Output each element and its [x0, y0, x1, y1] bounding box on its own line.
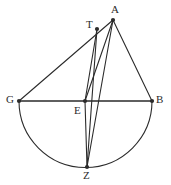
- segment-te: [85, 29, 97, 101]
- segment-group: [19, 20, 152, 167]
- segment-ab: [113, 20, 152, 101]
- segment-tz: [87, 29, 97, 167]
- vertex-label-a: A: [111, 4, 119, 15]
- vertex-label-b: B: [156, 94, 163, 105]
- geometry-diagram: ATGEBZ: [0, 0, 171, 185]
- vertex-label-g: G: [6, 94, 14, 105]
- vertex-label-e: E: [74, 105, 81, 116]
- vertex-dot-b: [150, 99, 154, 103]
- vertex-dot-e: [83, 99, 87, 103]
- vertex-label-z: Z: [83, 170, 90, 181]
- vertex-dot-g: [17, 99, 21, 103]
- vertex-label-t: T: [86, 19, 93, 30]
- vertex-dot-t: [95, 27, 99, 31]
- segment-az: [87, 20, 113, 167]
- segment-ez: [85, 101, 87, 167]
- vertex-dot-a: [111, 18, 115, 22]
